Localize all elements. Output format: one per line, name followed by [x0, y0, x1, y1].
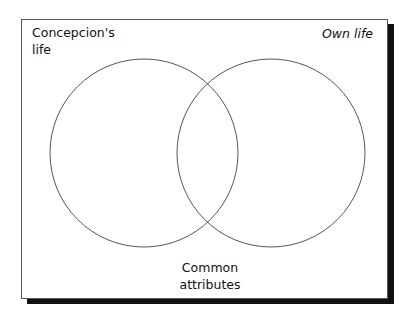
label-left-line1: Concepcion's — [32, 24, 115, 41]
left-circle — [50, 59, 238, 247]
label-common-line2: attributes — [170, 276, 250, 293]
label-common-attributes: Common attributes — [170, 259, 250, 293]
label-common-line1: Common — [170, 259, 250, 276]
right-circle — [177, 59, 365, 247]
label-own-life: Own life — [322, 25, 373, 42]
label-left-line2: life — [32, 41, 115, 58]
label-concepcions-life: Concepcion's life — [32, 24, 115, 58]
